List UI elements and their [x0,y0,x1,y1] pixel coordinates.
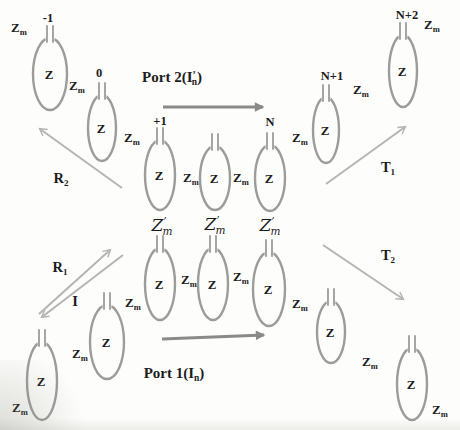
mutual-impedance-label: Zm [353,82,369,99]
resonator-bottom-3: Z [253,240,285,326]
mutual-impedance-label: Zm [362,354,378,371]
mutual-impedance-label: Zm [233,269,249,286]
mutual-impedance-label: Zm [72,346,88,363]
resonator-mid-top: Z [200,134,230,210]
mutual-impedance-label: Zm [69,78,85,95]
impedance-label: Z [102,335,111,350]
impedance-label: Z [407,377,416,392]
impedance-label: Z [210,171,219,186]
impedance-label: Z [97,121,106,136]
t1-label: T1 [381,159,396,177]
resonator-N1: Z [313,85,339,163]
resonator-left-lower-1: Z [90,293,124,379]
mutual-impedance-label: Zm [292,130,308,147]
port1-arrow [162,335,264,339]
resonator-left-lower-2: Z [27,330,57,420]
mutual-impedance-label: Zm [12,400,28,417]
impedance-label: Z [264,282,273,297]
impedance-label: Z [155,168,164,183]
incident-label: I [72,293,78,309]
mutual-impedance-label: Zm [424,17,440,34]
resonator-right-lower-2: Z [397,336,427,420]
coupling-impedance-label: Z’m [258,215,280,237]
impedance-label: Z [398,64,407,79]
impedance-label: Z [155,277,164,292]
resonator-N2: Z [389,23,417,107]
cell-index-N1: N+1 [321,69,343,83]
resonator-N: Z [255,133,285,211]
resonator-minus1: Z [33,26,67,110]
coupling-impedance-label: Z’m [150,215,172,237]
cell-index-minus1: -1 [43,11,53,25]
cell-index-N2: N+2 [396,8,418,22]
cell-index-N: N [265,115,274,129]
mutual-impedance-label: Zm [233,170,249,187]
r1-label: R1 [53,259,68,277]
impedance-label: Z [45,67,54,82]
t2-arrow [323,245,403,299]
port2-label: Port 2(I’n) [142,69,202,87]
mutual-impedance-label: Zm [292,296,308,313]
mutual-impedance-label: Zm [124,130,140,147]
r2-label: R2 [54,170,69,188]
impedance-label: Z [37,374,46,389]
coupling-impedance-label: Z’m [203,214,225,236]
cell-index-plus1: +1 [153,114,166,128]
port1-label: Port 1(In) [144,365,205,383]
resonator-chain-diagram: Z Z Z Z Z Z [0,0,460,430]
r2-arrow [40,129,122,188]
resonator-bottom-1: Z [145,236,175,320]
mutual-impedance-label: Zm [432,402,448,419]
impedance-label: Z [321,123,330,138]
resonator-bottom-2: Z [198,236,228,320]
t2-label: T2 [381,247,396,265]
mutual-impedance-label: Zm [125,295,141,312]
impedance-label: Z [208,277,217,292]
cell-index-0: 0 [96,66,102,80]
mutual-impedance-label: Zm [11,20,27,37]
impedance-label: Z [265,171,274,186]
mutual-impedance-label: Zm [183,170,199,187]
resonator-plus1: Z [145,128,175,210]
impedance-label: Z [326,325,335,340]
resonator-right-lower-1: Z [317,289,345,363]
diagram-canvas: Z Z Z Z Z Z [0,0,460,430]
resonator-0: Z [88,83,116,161]
mutual-impedance-label: Zm [181,272,197,289]
